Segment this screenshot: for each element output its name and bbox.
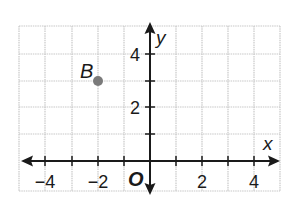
coordinate-plane: x y O −4 −2 2 4 2 4 B	[0, 0, 301, 202]
x-axis-label: x	[262, 133, 274, 154]
point-b-label: B	[80, 60, 93, 82]
y-axis-label: y	[154, 27, 167, 48]
point-b	[93, 76, 103, 86]
x-tick-label-2: 2	[197, 172, 207, 192]
y-tick-label-4: 4	[130, 45, 140, 65]
x-tick-label-neg4: −4	[35, 172, 56, 192]
y-axis	[145, 22, 156, 195]
x-tick-label-neg2: −2	[88, 172, 109, 192]
origin-label: O	[128, 168, 144, 190]
x-tick-label-4: 4	[249, 172, 259, 192]
y-tick-label-2: 2	[130, 98, 140, 118]
